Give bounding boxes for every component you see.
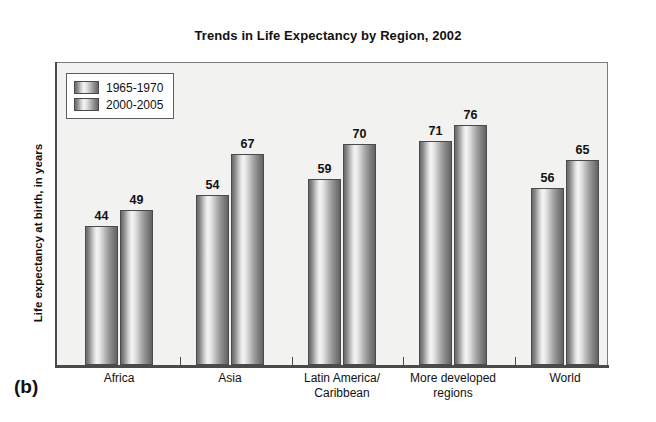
- y-axis-line: [55, 62, 57, 368]
- bar: [454, 125, 487, 365]
- x-axis-tick: [403, 357, 404, 365]
- x-axis-tick: [515, 357, 516, 365]
- legend-item-1965-1970: 1965-1970: [74, 79, 163, 96]
- legend-label: 1965-1970: [106, 81, 163, 95]
- x-axis-tick: [180, 357, 181, 365]
- bar-value-label: 49: [117, 193, 157, 207]
- bar: [343, 144, 376, 365]
- legend-swatch-icon: [74, 81, 99, 94]
- bar-value-label: 65: [563, 143, 603, 157]
- x-axis-category-label: World: [495, 371, 635, 386]
- legend: 1965-1970 2000-2005: [66, 73, 174, 119]
- bar: [531, 188, 564, 365]
- bar: [85, 226, 118, 365]
- page-title: Trends in Life Expectancy by Region, 200…: [0, 28, 656, 43]
- bar: [566, 160, 599, 365]
- bar-value-label: 44: [82, 209, 122, 223]
- bar-value-label: 59: [305, 162, 345, 176]
- bar-value-label: 67: [228, 137, 268, 151]
- x-axis-line: [55, 365, 609, 368]
- legend-item-2000-2005: 2000-2005: [74, 96, 163, 113]
- y-axis-label: Life expectancy at birth, in years: [32, 88, 44, 378]
- bar-value-label: 54: [193, 178, 233, 192]
- bar: [231, 154, 264, 365]
- bar: [120, 210, 153, 365]
- x-axis-tick: [292, 357, 293, 365]
- panel-label: (b): [14, 376, 38, 398]
- bar: [419, 141, 452, 365]
- bar: [196, 195, 229, 365]
- legend-label: 2000-2005: [106, 98, 163, 112]
- bar-value-label: 76: [451, 108, 491, 122]
- bar: [308, 179, 341, 365]
- bar-value-label: 71: [416, 124, 456, 138]
- bar-value-label: 70: [340, 127, 380, 141]
- legend-swatch-icon: [74, 98, 99, 111]
- bar-value-label: 56: [528, 171, 568, 185]
